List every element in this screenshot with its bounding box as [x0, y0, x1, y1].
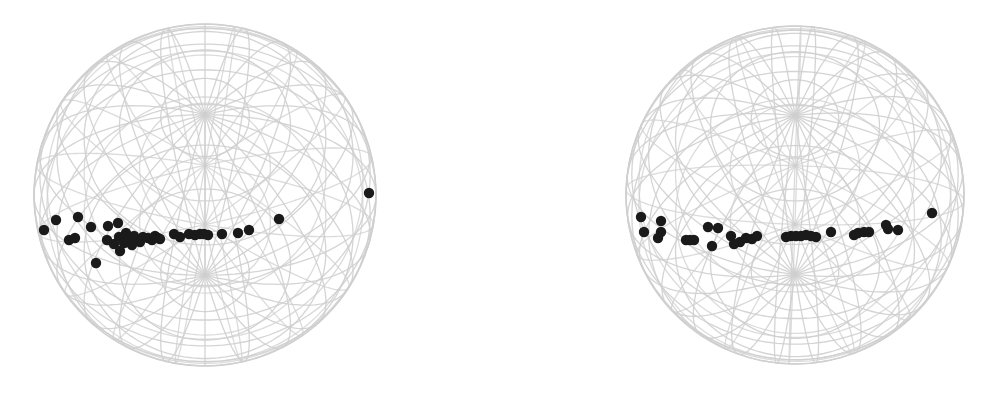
data-point — [636, 212, 646, 222]
data-point — [244, 225, 254, 235]
data-point — [39, 225, 49, 235]
data-point — [70, 233, 80, 243]
data-point — [656, 227, 666, 237]
data-point — [811, 232, 821, 242]
data-point — [86, 222, 96, 232]
data-point — [656, 216, 666, 226]
sphere-panel-left — [34, 24, 376, 366]
data-point — [364, 188, 374, 198]
data-point — [217, 229, 227, 239]
data-point — [893, 225, 903, 235]
wireframe-line — [795, 166, 910, 321]
data-point — [703, 222, 713, 232]
sphere-panel-right — [626, 26, 964, 364]
data-point — [689, 235, 699, 245]
data-points-left — [39, 188, 374, 268]
wireframe-line — [795, 116, 952, 292]
data-point — [639, 227, 649, 237]
data-point — [127, 240, 137, 250]
data-point — [864, 227, 874, 237]
data-point — [175, 232, 185, 242]
data-point — [713, 223, 723, 233]
sphere-scatter-figure — [0, 0, 994, 397]
data-point — [274, 214, 284, 224]
data-point — [51, 215, 61, 225]
data-point — [113, 218, 123, 228]
data-point — [103, 221, 113, 231]
data-point — [883, 224, 893, 234]
data-point — [91, 258, 101, 268]
wireframe-line — [626, 46, 964, 344]
data-point — [233, 228, 243, 238]
wireframe-line — [680, 70, 795, 225]
data-point — [752, 231, 762, 241]
data-point — [826, 227, 836, 237]
data-point — [155, 234, 165, 244]
sphere-wireframe-right — [626, 26, 964, 364]
data-point — [927, 208, 937, 218]
data-point — [707, 241, 717, 251]
data-point — [73, 212, 83, 222]
data-point — [203, 230, 213, 240]
sphere-wireframe-left — [34, 24, 376, 366]
